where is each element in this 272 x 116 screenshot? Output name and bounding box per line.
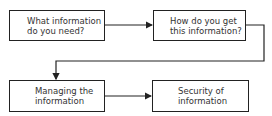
node-label: What information do you need? <box>27 16 101 36</box>
node-security-information: Security of information <box>152 80 249 112</box>
node-label: How do you get this information? <box>170 16 242 36</box>
node-what-information: What information do you need? <box>9 10 105 41</box>
node-label: Security of information <box>178 86 227 106</box>
node-managing-information: Managing the information <box>9 80 105 112</box>
node-how-get-information: How do you get this information? <box>153 10 246 41</box>
node-label: Managing the information <box>35 86 93 106</box>
